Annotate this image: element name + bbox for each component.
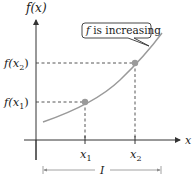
x-label-x1: x1 xyxy=(80,147,92,163)
callout-text: is increasing xyxy=(90,24,161,36)
callout-bubble: f is increasing xyxy=(82,23,161,46)
increasing-curve xyxy=(43,33,162,122)
y-axis-label: f(x) xyxy=(25,1,47,15)
interval-indicator: I xyxy=(43,164,161,177)
interval-label: I xyxy=(99,164,105,177)
point-2 xyxy=(132,60,138,66)
svg-text:f is increasing: f is increasing xyxy=(85,24,161,36)
x-axis-label: x xyxy=(185,134,192,147)
y-label-f-x1: f(x1) xyxy=(3,95,29,111)
increasing-function-diagram: f(x) x f is increasing f(x2) f(x1) x1 x2 xyxy=(0,0,195,180)
point-1 xyxy=(82,99,88,105)
x-label-x2: x2 xyxy=(130,147,142,163)
y-label-f-x2: f(x2) xyxy=(3,56,29,72)
